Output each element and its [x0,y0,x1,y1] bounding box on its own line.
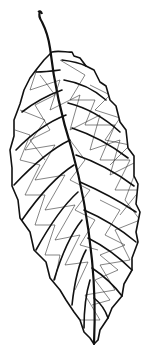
leaf-icon [0,0,163,356]
leaf-illustration [0,0,163,356]
